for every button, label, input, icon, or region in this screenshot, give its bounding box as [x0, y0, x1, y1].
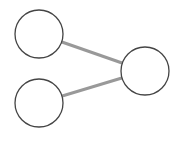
node-n1	[15, 10, 63, 58]
node-n2	[15, 79, 63, 127]
graph-diagram	[0, 0, 179, 141]
nodes-layer	[15, 10, 169, 127]
node-n3	[121, 47, 169, 95]
